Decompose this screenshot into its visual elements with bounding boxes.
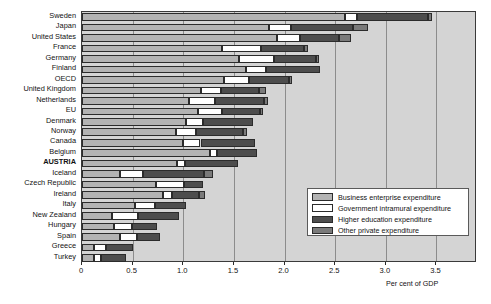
- bar-segment: [82, 24, 269, 32]
- category-label-austria: AUSTRIA: [43, 157, 76, 167]
- bar-segment: [106, 244, 132, 252]
- x-tick-label-0.5: 0.5: [126, 266, 137, 275]
- bar-segment: [316, 55, 319, 63]
- bar-segment: [163, 191, 172, 199]
- bar-segment: [82, 170, 120, 178]
- x-tick: [233, 262, 234, 265]
- bar-segment: [176, 128, 196, 136]
- category-label-japan: Japan: [56, 21, 76, 31]
- bar-segment: [82, 66, 246, 74]
- bar-segment: [260, 108, 263, 116]
- bar-row: [82, 97, 477, 105]
- category-label-united-states: United States: [32, 32, 76, 42]
- x-tick-label-0: 0: [79, 266, 83, 275]
- bar-segment: [204, 170, 213, 178]
- category-label-canada: Canada: [50, 136, 76, 146]
- rd-expenditure-bar-chart: SwedenJapanUnited StatesFranceGermanyFin…: [0, 0, 491, 304]
- bar-row: [82, 118, 477, 126]
- x-tick-label-2.0: 2.0: [278, 266, 289, 275]
- category-label-belgium: Belgium: [49, 147, 76, 157]
- category-label-finland: Finland: [52, 63, 76, 73]
- bar-segment: [186, 118, 202, 126]
- bar-row: [82, 108, 477, 116]
- category-label-ireland: Ireland: [53, 189, 76, 199]
- bar-row: [82, 34, 477, 42]
- legend-label: Business enterprise expenditure: [338, 193, 441, 202]
- category-label-france: France: [53, 42, 76, 52]
- bar-segment: [94, 244, 106, 252]
- bar-row: [82, 139, 477, 147]
- category-axis-labels: SwedenJapanUnited StatesFranceGermanyFin…: [0, 11, 79, 262]
- category-label-united-kingdom: United Kingdom: [23, 84, 76, 94]
- legend-item: Business enterprise expenditure: [312, 192, 464, 202]
- bar-segment: [274, 55, 316, 63]
- legend-swatch-3: [312, 227, 333, 234]
- bar-segment: [215, 97, 265, 105]
- bar-row: [82, 45, 477, 53]
- category-label-denmark: Denmark: [46, 116, 76, 126]
- bar-row: [82, 160, 477, 168]
- bar-segment: [201, 87, 221, 95]
- bar-segment: [82, 223, 114, 231]
- bar-segment: [428, 13, 432, 21]
- x-tick: [284, 262, 285, 265]
- bar-segment: [120, 233, 136, 241]
- legend-swatch-2: [312, 216, 333, 223]
- x-tick: [334, 262, 335, 265]
- bar-segment: [199, 191, 204, 199]
- x-tick: [385, 262, 386, 265]
- bar-segment: [184, 181, 202, 189]
- bar-segment: [259, 87, 266, 95]
- category-label-oecd: OECD: [55, 74, 76, 84]
- bar-row: [82, 55, 477, 63]
- bar-segment: [243, 128, 247, 136]
- legend-swatch-1: [312, 204, 333, 211]
- bar-segment: [155, 202, 186, 210]
- legend-item: Other private expenditure: [312, 226, 464, 236]
- bar-segment: [289, 76, 292, 84]
- x-tick: [81, 262, 82, 265]
- bar-segment: [261, 45, 304, 53]
- x-tick-label-1.0: 1.0: [177, 266, 188, 275]
- bar-segment: [185, 160, 238, 168]
- category-label-spain: Spain: [57, 231, 76, 241]
- x-tick: [182, 262, 183, 265]
- bar-row: [82, 128, 477, 136]
- x-tick-label-3.0: 3.0: [380, 266, 391, 275]
- bar-segment: [82, 233, 120, 241]
- bar-segment: [82, 87, 201, 95]
- legend-item: Government intramural expenditure: [312, 203, 464, 213]
- bar-segment: [210, 149, 217, 157]
- bar-segment: [82, 244, 94, 252]
- bar-segment: [82, 202, 135, 210]
- bar-segment: [82, 13, 345, 21]
- bar-segment: [82, 45, 222, 53]
- bar-segment: [135, 202, 155, 210]
- legend-item: Higher education expenditure: [312, 214, 464, 224]
- bar-row: [82, 170, 477, 178]
- bar-segment: [222, 108, 260, 116]
- bar-segment: [143, 170, 204, 178]
- bar-segment: [138, 212, 180, 220]
- bar-segment: [291, 24, 354, 32]
- bar-row: [82, 87, 477, 95]
- bar-segment: [120, 170, 142, 178]
- bar-segment: [183, 139, 200, 147]
- bar-segment: [137, 233, 160, 241]
- bar-segment: [339, 34, 351, 42]
- bar-segment: [82, 118, 186, 126]
- x-tick-label-3.5: 3.5: [430, 266, 441, 275]
- bar-segment: [112, 212, 137, 220]
- bar-segment: [82, 160, 177, 168]
- bar-segment: [198, 108, 221, 116]
- bar-segment: [264, 97, 268, 105]
- category-label-czech-republic: Czech Republic: [24, 178, 76, 188]
- category-label-italy: Italy: [62, 199, 76, 209]
- bar-row: [82, 244, 477, 252]
- legend-label: Other private expenditure: [338, 226, 419, 235]
- bar-segment: [345, 13, 357, 21]
- chart-legend: Business enterprise expenditureGovernmen…: [307, 188, 469, 236]
- category-label-iceland: Iceland: [52, 168, 76, 178]
- legend-swatch-0: [312, 193, 333, 200]
- bar-segment: [201, 139, 256, 147]
